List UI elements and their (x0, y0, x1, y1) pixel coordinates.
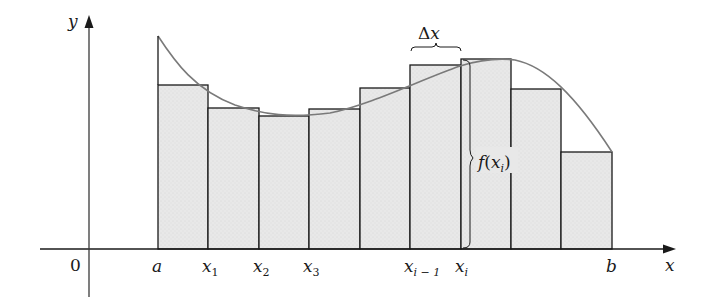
delta-x-brace (411, 43, 461, 51)
tick-label: xi − 1 (404, 256, 440, 279)
riemann-rectangle (511, 89, 561, 249)
tick-label: xi (455, 256, 468, 279)
tick-label: a (152, 256, 162, 276)
tick-label: x3 (303, 256, 320, 279)
riemann-rectangle (561, 152, 612, 249)
riemann-rectangle (208, 108, 259, 249)
tick-label: x2 (253, 256, 270, 279)
rectangles (158, 59, 612, 249)
origin-label: 0 (70, 255, 81, 275)
riemann-rectangle (410, 65, 461, 249)
tick-labels: ax1x2x3xi − 1xib (152, 256, 617, 279)
tick-label: x1 (202, 256, 219, 279)
riemann-rectangle (259, 116, 309, 249)
riemann-rectangle (360, 88, 410, 249)
height-label: f(xi) (476, 152, 511, 175)
y-axis-label: y (67, 11, 78, 31)
x-axis-arrow-icon (663, 245, 676, 254)
riemann-sum-diagram: y x 0 ax1x2x3xi − 1xib Δx f(xi) (0, 0, 705, 308)
x-axis-label: x (665, 255, 675, 275)
tick-label: b (606, 256, 617, 276)
riemann-rectangle (309, 109, 360, 249)
y-axis-arrow-icon (85, 15, 94, 28)
riemann-rectangle (158, 85, 208, 249)
delta-x-label: Δx (418, 23, 440, 43)
